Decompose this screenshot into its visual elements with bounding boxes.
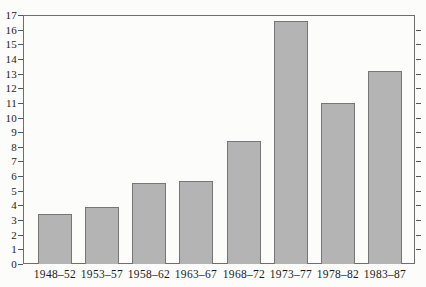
y-tick-right <box>416 103 421 104</box>
y-tick-right <box>416 235 421 236</box>
y-tick-left <box>18 118 23 119</box>
y-tick-left <box>18 264 23 265</box>
y-tick-label: 16 <box>1 25 17 36</box>
bar <box>321 103 355 264</box>
y-tick-left <box>18 44 23 45</box>
y-tick-left <box>18 220 23 221</box>
y-tick-label: 0 <box>1 259 17 270</box>
y-tick-label: 5 <box>1 186 17 197</box>
bar <box>38 214 72 264</box>
y-tick-right <box>416 161 421 162</box>
y-tick-right <box>416 249 421 250</box>
plot-area <box>23 15 415 264</box>
y-tick-left <box>18 176 23 177</box>
y-tick-right <box>416 147 421 148</box>
x-category-label: 1983–87 <box>353 268 417 280</box>
y-tick-right <box>416 191 421 192</box>
y-tick-left <box>18 161 23 162</box>
y-tick-label: 2 <box>1 230 17 241</box>
y-tick-right <box>416 205 421 206</box>
bar <box>274 21 308 264</box>
y-tick-right <box>416 118 421 119</box>
y-tick-right <box>416 220 421 221</box>
y-tick-right <box>416 74 421 75</box>
y-tick-left <box>18 132 23 133</box>
y-tick-label: 15 <box>1 39 17 50</box>
y-tick-label: 7 <box>1 156 17 167</box>
bar-chart-figure: 012345678910111213141516171948–521953–57… <box>0 0 426 287</box>
bar <box>179 181 213 264</box>
y-tick-label: 11 <box>1 98 17 109</box>
y-tick-label: 17 <box>1 10 17 21</box>
y-tick-left <box>18 103 23 104</box>
y-tick-left <box>18 249 23 250</box>
y-tick-label: 9 <box>1 127 17 138</box>
y-tick-label: 14 <box>1 54 17 65</box>
bar <box>85 207 119 264</box>
y-tick-left <box>18 74 23 75</box>
y-tick-right <box>416 59 421 60</box>
bar <box>227 141 261 264</box>
bar <box>132 183 166 264</box>
y-tick-left <box>18 205 23 206</box>
y-tick-left <box>18 147 23 148</box>
y-tick-label: 1 <box>1 244 17 255</box>
y-tick-left <box>18 191 23 192</box>
y-tick-left <box>18 235 23 236</box>
y-tick-label: 6 <box>1 171 17 182</box>
y-tick-label: 10 <box>1 113 17 124</box>
y-tick-right <box>416 132 421 133</box>
y-tick-left <box>18 30 23 31</box>
y-tick-right <box>416 88 421 89</box>
bar <box>368 71 402 264</box>
y-tick-label: 3 <box>1 215 17 226</box>
y-tick-right <box>416 30 421 31</box>
y-tick-right <box>416 44 421 45</box>
y-tick-label: 8 <box>1 142 17 153</box>
y-tick-label: 13 <box>1 69 17 80</box>
y-tick-label: 12 <box>1 83 17 94</box>
y-tick-left <box>18 88 23 89</box>
y-tick-right <box>416 176 421 177</box>
y-tick-left <box>18 15 23 16</box>
y-tick-left <box>18 59 23 60</box>
y-tick-label: 4 <box>1 200 17 211</box>
